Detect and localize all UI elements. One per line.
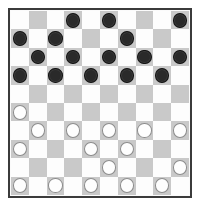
white-checker[interactable] [13, 178, 27, 193]
black-checker[interactable] [155, 68, 169, 83]
board-square-r8-c3[interactable] [64, 158, 82, 176]
board-square-r9-c4[interactable] [82, 177, 100, 195]
board-square-r1-c6[interactable] [118, 29, 136, 47]
board-square-r0-c2[interactable] [47, 11, 65, 29]
board-square-r4-c4[interactable] [82, 85, 100, 103]
board-square-r2-c2[interactable] [47, 48, 65, 66]
board-square-r7-c4[interactable] [82, 140, 100, 158]
board-square-r3-c5[interactable] [100, 66, 118, 84]
white-checker[interactable] [48, 178, 62, 193]
board-square-r1-c8[interactable] [153, 29, 171, 47]
board-square-r1-c9[interactable] [171, 29, 189, 47]
board-square-r7-c8[interactable] [153, 140, 171, 158]
board-square-r0-c0[interactable] [11, 11, 29, 29]
board-square-r1-c0[interactable] [11, 29, 29, 47]
black-checker[interactable] [102, 13, 116, 28]
white-checker[interactable] [13, 105, 27, 120]
board-square-r5-c7[interactable] [136, 103, 154, 121]
board-square-r7-c0[interactable] [11, 140, 29, 158]
white-checker[interactable] [173, 123, 187, 138]
black-checker[interactable] [173, 13, 187, 28]
board-square-r2-c3[interactable] [64, 48, 82, 66]
board-square-r9-c3[interactable] [64, 177, 82, 195]
board-square-r6-c8[interactable] [153, 121, 171, 139]
board-square-r6-c0[interactable] [11, 121, 29, 139]
board-square-r2-c1[interactable] [29, 48, 47, 66]
white-checker[interactable] [13, 142, 27, 157]
black-checker[interactable] [84, 68, 98, 83]
checkers-board-grid[interactable] [11, 11, 189, 195]
board-square-r0-c8[interactable] [153, 11, 171, 29]
board-square-r7-c2[interactable] [47, 140, 65, 158]
white-checker[interactable] [102, 123, 116, 138]
board-square-r6-c1[interactable] [29, 121, 47, 139]
board-square-r9-c6[interactable] [118, 177, 136, 195]
board-square-r6-c4[interactable] [82, 121, 100, 139]
board-square-r0-c7[interactable] [136, 11, 154, 29]
white-checker[interactable] [84, 178, 98, 193]
board-square-r3-c4[interactable] [82, 66, 100, 84]
board-square-r6-c6[interactable] [118, 121, 136, 139]
board-square-r0-c5[interactable] [100, 11, 118, 29]
white-checker[interactable] [120, 142, 134, 157]
black-checker[interactable] [13, 68, 27, 83]
board-square-r1-c7[interactable] [136, 29, 154, 47]
board-square-r7-c5[interactable] [100, 140, 118, 158]
board-square-r7-c9[interactable] [171, 140, 189, 158]
board-square-r9-c1[interactable] [29, 177, 47, 195]
board-square-r5-c5[interactable] [100, 103, 118, 121]
board-square-r4-c6[interactable] [118, 85, 136, 103]
white-checker[interactable] [31, 123, 45, 138]
board-square-r4-c3[interactable] [64, 85, 82, 103]
board-square-r3-c6[interactable] [118, 66, 136, 84]
board-square-r9-c5[interactable] [100, 177, 118, 195]
board-square-r9-c7[interactable] [136, 177, 154, 195]
board-square-r6-c3[interactable] [64, 121, 82, 139]
board-square-r6-c9[interactable] [171, 121, 189, 139]
board-square-r8-c2[interactable] [47, 158, 65, 176]
white-checker[interactable] [137, 123, 151, 138]
black-checker[interactable] [173, 50, 187, 65]
board-square-r0-c9[interactable] [171, 11, 189, 29]
board-square-r2-c6[interactable] [118, 48, 136, 66]
black-checker[interactable] [13, 31, 27, 46]
board-square-r5-c1[interactable] [29, 103, 47, 121]
white-checker[interactable] [173, 160, 187, 175]
black-checker[interactable] [137, 50, 151, 65]
board-square-r7-c3[interactable] [64, 140, 82, 158]
board-square-r8-c0[interactable] [11, 158, 29, 176]
board-square-r2-c5[interactable] [100, 48, 118, 66]
board-square-r4-c7[interactable] [136, 85, 154, 103]
board-square-r1-c5[interactable] [100, 29, 118, 47]
board-square-r3-c8[interactable] [153, 66, 171, 84]
board-square-r8-c6[interactable] [118, 158, 136, 176]
board-square-r9-c2[interactable] [47, 177, 65, 195]
board-square-r5-c8[interactable] [153, 103, 171, 121]
board-square-r5-c0[interactable] [11, 103, 29, 121]
board-square-r8-c9[interactable] [171, 158, 189, 176]
board-square-r5-c3[interactable] [64, 103, 82, 121]
white-checker[interactable] [66, 123, 80, 138]
board-square-r4-c2[interactable] [47, 85, 65, 103]
board-square-r4-c9[interactable] [171, 85, 189, 103]
board-square-r7-c6[interactable] [118, 140, 136, 158]
board-square-r1-c3[interactable] [64, 29, 82, 47]
board-square-r0-c1[interactable] [29, 11, 47, 29]
board-square-r3-c7[interactable] [136, 66, 154, 84]
board-square-r4-c8[interactable] [153, 85, 171, 103]
board-square-r1-c2[interactable] [47, 29, 65, 47]
board-square-r8-c5[interactable] [100, 158, 118, 176]
board-square-r9-c9[interactable] [171, 177, 189, 195]
board-square-r0-c3[interactable] [64, 11, 82, 29]
board-square-r0-c6[interactable] [118, 11, 136, 29]
board-square-r2-c7[interactable] [136, 48, 154, 66]
board-square-r5-c4[interactable] [82, 103, 100, 121]
board-square-r1-c1[interactable] [29, 29, 47, 47]
white-checker[interactable] [155, 178, 169, 193]
board-square-r3-c3[interactable] [64, 66, 82, 84]
board-square-r2-c4[interactable] [82, 48, 100, 66]
board-square-r4-c0[interactable] [11, 85, 29, 103]
board-square-r2-c0[interactable] [11, 48, 29, 66]
board-square-r0-c4[interactable] [82, 11, 100, 29]
black-checker[interactable] [120, 68, 134, 83]
